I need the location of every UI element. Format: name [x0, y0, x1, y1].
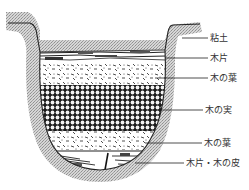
label-wood-chips-top: 木片 [210, 53, 228, 63]
label-wood-chips-bark: 木片・木の皮 [186, 158, 240, 168]
label-nuts: 木の実 [205, 105, 232, 115]
label-leaves-lower: 木の葉 [204, 138, 231, 148]
label-leaves-upper: 木の葉 [210, 73, 237, 83]
leaves-upper-layer [35, 62, 175, 85]
nuts-layer [35, 85, 175, 131]
label-clay: 粘土 [210, 33, 228, 43]
